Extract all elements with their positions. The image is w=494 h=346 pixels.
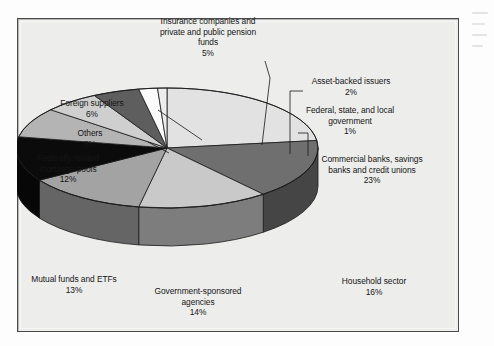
label-government-sponsored-agencies-pct: 14% [136, 307, 260, 317]
label-federal-state-local-government-pct: 1% [282, 126, 418, 136]
label-federally-related-mortgage-pools-pct: 12% [8, 174, 128, 184]
label-government-sponsored-agencies-name: Government-sponsored agencies [155, 286, 242, 306]
label-insurance-companies: Insurance companies and private and publ… [130, 6, 286, 68]
label-mutual-funds-etfs-pct: 13% [10, 285, 138, 295]
label-others-name: Others [78, 128, 103, 138]
label-mutual-funds-etfs: Mutual funds and ETFs 13% [10, 264, 138, 306]
label-household-sector: Household sector 16% [322, 266, 426, 308]
label-commercial-banks: Commercial banks, savings banks and cred… [296, 144, 448, 196]
label-insurance-companies-name: Insurance companies and private and publ… [160, 16, 256, 47]
label-household-sector-name: Household sector [342, 276, 406, 286]
label-federal-state-local-government-name: Federal, state, and local government [306, 105, 394, 125]
label-commercial-banks-name: Commercial banks, savings banks and cred… [321, 154, 422, 174]
label-foreign-suppliers-name: Foreign suppliers [60, 98, 123, 108]
label-federal-state-local-government: Federal, state, and local government 1% [282, 95, 418, 147]
label-asset-backed-issuers-name: Asset-backed issuers [312, 76, 391, 86]
label-others-pct: 8% [52, 139, 128, 149]
page-margin-artifact [472, 12, 494, 74]
label-government-sponsored-agencies: Government-sponsored agencies 14% [136, 276, 260, 328]
label-commercial-banks-pct: 23% [296, 175, 448, 185]
label-household-sector-pct: 16% [322, 287, 426, 297]
label-foreign-suppliers-pct: 6% [46, 109, 138, 119]
screenshot-root: Insurance companies and private and publ… [0, 0, 494, 346]
label-mutual-funds-etfs-name: Mutual funds and ETFs [31, 274, 117, 284]
label-insurance-companies-pct: 5% [130, 48, 286, 58]
label-foreign-suppliers: Foreign suppliers 6% [46, 88, 138, 130]
